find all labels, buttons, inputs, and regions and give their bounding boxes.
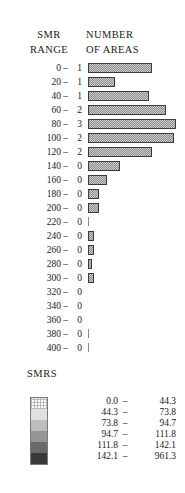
- row-range-label: 260 –: [12, 243, 68, 257]
- row-bar-track: [88, 159, 183, 173]
- row-bar: [88, 189, 99, 199]
- row-area-count: 3: [70, 117, 82, 131]
- legend-range-dash: –: [118, 396, 132, 407]
- legend-range-low: 111.8: [78, 440, 118, 451]
- row-area-count: 0: [70, 341, 82, 355]
- legend-range-dash: –: [118, 451, 132, 462]
- row-bar: [88, 63, 152, 73]
- row-area-count: 0: [70, 327, 82, 341]
- row-range-label: 300 –: [12, 271, 68, 285]
- row-bar-track: [88, 117, 183, 131]
- row-range-label: 380 –: [12, 327, 68, 341]
- row-bar-track: [88, 61, 183, 75]
- smr-range-header-line2: RANGE: [18, 42, 80, 57]
- row-range-label: 80 –: [12, 117, 68, 131]
- legend-range-low: 94.7: [78, 429, 118, 440]
- legend-title: SMRS: [27, 368, 57, 379]
- histogram-row: 20 –1: [0, 75, 185, 89]
- legend-range-low: 44.3: [78, 407, 118, 418]
- row-range-label: 140 –: [12, 159, 68, 173]
- row-range-label: 320 –: [12, 285, 68, 299]
- row-area-count: 2: [70, 131, 82, 145]
- legend-range-high: 111.8: [132, 429, 176, 440]
- row-area-count: 0: [70, 159, 82, 173]
- row-range-label: 360 –: [12, 313, 68, 327]
- legend-row: 44.3–73.8: [52, 407, 180, 418]
- row-bar: [88, 175, 107, 185]
- histogram-row: 160 –0: [0, 173, 185, 187]
- legend-range-high: 961.3: [132, 451, 176, 462]
- row-bar-track: [88, 299, 183, 313]
- row-area-count: 0: [70, 313, 82, 327]
- row-bar-track: [88, 271, 183, 285]
- row-range-label: 40 –: [12, 89, 68, 103]
- legend-row: 142.1–961.3: [52, 451, 180, 462]
- row-bar-track: [88, 201, 183, 215]
- row-area-count: 0: [70, 215, 82, 229]
- row-bar: [88, 259, 92, 269]
- histogram-row: 0 –1: [0, 61, 185, 75]
- histogram-row: 400 –0: [0, 341, 185, 355]
- row-bar: [88, 161, 120, 171]
- row-area-count: 1: [70, 75, 82, 89]
- row-area-count: 0: [70, 229, 82, 243]
- row-range-label: 200 –: [12, 201, 68, 215]
- smr-range-header: SMR RANGE: [18, 27, 80, 57]
- row-bar: [88, 91, 149, 101]
- histogram-row: 240 –0: [0, 229, 185, 243]
- row-bar-track: [88, 327, 183, 341]
- legend-range-high: 94.7: [132, 418, 176, 429]
- legend-range-dash: –: [118, 418, 132, 429]
- legend-swatch-column: [30, 397, 48, 465]
- row-range-label: 60 –: [12, 103, 68, 117]
- row-area-count: 0: [70, 187, 82, 201]
- row-range-label: 280 –: [12, 257, 68, 271]
- legend-range-low: 142.1: [78, 451, 118, 462]
- legend-swatch: [31, 431, 47, 442]
- row-area-count: 0: [70, 243, 82, 257]
- legend-range-high: 44.3: [132, 396, 176, 407]
- legend-range-high: 73.8: [132, 407, 176, 418]
- row-bar-track: [88, 257, 183, 271]
- number-of-areas-header-line1: NUMBER: [86, 27, 181, 42]
- legend-swatch: [31, 398, 47, 409]
- legend-swatch: [31, 420, 47, 431]
- row-bar: [88, 273, 94, 283]
- row-bar-track: [88, 341, 183, 355]
- histogram-row: 260 –0: [0, 243, 185, 257]
- row-bar-track: [88, 313, 183, 327]
- histogram-row: 380 –0: [0, 327, 185, 341]
- row-bar-track: [88, 173, 183, 187]
- row-bar-track: [88, 89, 183, 103]
- row-area-count: 0: [70, 257, 82, 271]
- row-bar-track: [88, 187, 183, 201]
- row-range-label: 240 –: [12, 229, 68, 243]
- row-range-label: 340 –: [12, 299, 68, 313]
- histogram-row: 120 –2: [0, 145, 185, 159]
- legend-range-dash: –: [118, 407, 132, 418]
- row-area-count: 0: [70, 271, 82, 285]
- legend-range-dash: –: [118, 429, 132, 440]
- row-bar-track: [88, 215, 183, 229]
- row-area-count: 0: [70, 201, 82, 215]
- number-of-areas-header-line2: OF AREAS: [86, 42, 181, 57]
- row-area-count: 0: [70, 299, 82, 313]
- histogram-row: 60 –2: [0, 103, 185, 117]
- legend-range-low: 0.0: [78, 396, 118, 407]
- row-bar: [88, 329, 89, 338]
- row-range-label: 220 –: [12, 215, 68, 229]
- row-bar-track: [88, 145, 183, 159]
- row-area-count: 0: [70, 173, 82, 187]
- legend-row: 111.8–142.1: [52, 440, 180, 451]
- row-bar: [88, 77, 115, 87]
- smr-range-header-line1: SMR: [18, 27, 80, 42]
- histogram-row: 180 –0: [0, 187, 185, 201]
- row-range-label: 180 –: [12, 187, 68, 201]
- histogram-row: 320 –0: [0, 285, 185, 299]
- row-bar: [88, 119, 176, 129]
- row-bar-track: [88, 103, 183, 117]
- row-area-count: 1: [70, 89, 82, 103]
- histogram-row: 220 –0: [0, 215, 185, 229]
- legend-row: 94.7–111.8: [52, 429, 180, 440]
- legend-row: 0.0–44.3: [52, 396, 180, 407]
